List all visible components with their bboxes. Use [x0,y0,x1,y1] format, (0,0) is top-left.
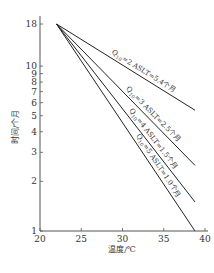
x-tick-label: 40 [199,234,211,244]
x-tick-label: 30 [117,234,129,244]
y-axis-label: 时间/个月 [10,110,20,145]
x-tick-label: 35 [158,234,170,244]
y-tick-label: 1 [31,226,37,236]
series-line [57,24,196,110]
y-tick-label: 10 [26,61,38,71]
x-axis-label: 温度/℃ [108,244,136,254]
chart: 20253035401234567891018 Q10=2 ASLT=5.4个月… [0,0,214,273]
series-line [57,24,196,202]
y-tick-label: 18 [26,19,38,29]
series-line [57,24,196,165]
x-tick-label: 25 [76,234,88,244]
series-group: Q10=2 ASLT=5.4个月Q10=3 ASLT=2.5个月Q10=4 AS… [57,24,196,231]
y-tick-label: 6 [31,98,37,108]
y-tick-label: 7 [31,87,37,97]
y-tick-label: 2 [31,176,37,186]
y-tick-label: 5 [31,111,37,121]
y-tick-label: 4 [31,127,37,137]
y-tick-label: 3 [31,147,37,157]
